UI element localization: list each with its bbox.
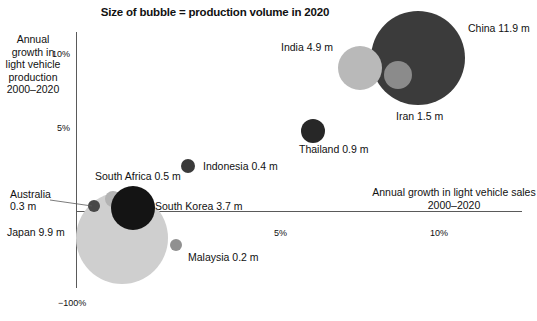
data-label-japan: Japan 9.9 m xyxy=(7,226,65,238)
y-tick-label-5pct: 5% xyxy=(44,123,70,133)
bubble-thailand[interactable] xyxy=(301,119,325,143)
data-label-south-korea: South Korea 3.7 m xyxy=(155,200,243,212)
data-label-south-africa: South Africa 0.5 m xyxy=(95,170,181,182)
bubble-iran[interactable] xyxy=(384,61,412,89)
data-label-india: India 4.9 m xyxy=(281,41,333,53)
x-tick-label-5pct: 5% xyxy=(274,228,287,238)
y-tick-label-minus100pct: −100% xyxy=(58,298,86,308)
x-axis-title: Annual growth in light vehicle sales 200… xyxy=(372,186,536,211)
data-label-china: China 11.9 m xyxy=(468,22,530,34)
bubble-south-korea[interactable] xyxy=(111,186,155,230)
bubble-australia[interactable] xyxy=(88,200,100,212)
y-axis-title: Annual growth in light vehicle productio… xyxy=(2,33,64,96)
bubble-india[interactable] xyxy=(338,46,382,90)
bubble-malaysia[interactable] xyxy=(170,239,182,251)
chart-title: Size of bubble = production volume in 20… xyxy=(0,6,430,18)
bubble-indonesia[interactable] xyxy=(181,159,195,173)
y-tick-label-10pct: 10% xyxy=(44,49,70,59)
data-label-australia: Australia 0.3 m xyxy=(10,188,60,213)
bubble-chart: Size of bubble = production volume in 20… xyxy=(0,0,537,321)
data-label-indonesia: Indonesia 0.4 m xyxy=(203,160,278,172)
x-tick-label-10pct: 10% xyxy=(430,228,448,238)
data-label-thailand: Thailand 0.9 m xyxy=(299,143,368,155)
bubble-china[interactable] xyxy=(371,11,465,105)
data-label-malaysia: Malaysia 0.2 m xyxy=(188,251,259,263)
data-label-iran: Iran 1.5 m xyxy=(396,110,443,122)
